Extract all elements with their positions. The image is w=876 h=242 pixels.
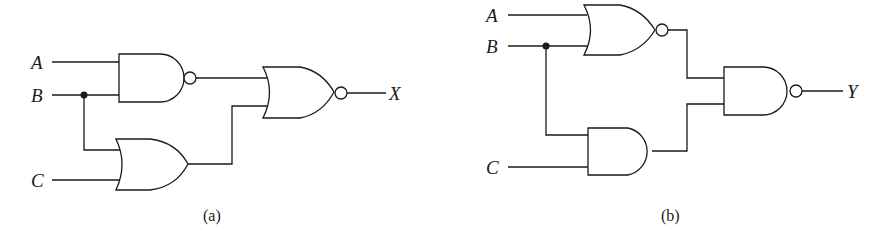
input-label-b-C: C [486, 157, 499, 178]
circuit-a: A B C X (a) [29, 52, 402, 225]
output-label-Y: Y [847, 81, 860, 102]
circuit-b: A B C Y (b) [484, 5, 860, 225]
nor-gate-b [584, 5, 655, 55]
logic-circuits-figure: A B C X (a) A B C [0, 0, 876, 242]
nand-gate-a [119, 54, 184, 102]
input-label-b-A: A [484, 5, 498, 26]
nand-bubble-a [184, 72, 196, 84]
and-gate-b [588, 128, 647, 175]
or-gate-a [116, 139, 188, 190]
wire-a-or-out [188, 106, 267, 164]
input-label-a-B: B [31, 85, 43, 106]
nor-bubble-b [656, 24, 668, 36]
wire-b-nor-out [668, 30, 725, 78]
caption-b: (b) [661, 207, 680, 225]
wire-b-B-branch [546, 46, 588, 135]
caption-a: (a) [203, 207, 221, 225]
nor-gate-a [263, 67, 334, 118]
input-label-a-C: C [31, 170, 44, 191]
nand-gate-b [724, 67, 787, 115]
input-label-b-B: B [486, 36, 498, 57]
wire-b-and-out [652, 104, 725, 151]
output-label-X: X [388, 83, 402, 104]
input-label-a-A: A [29, 52, 43, 73]
wire-a-B-branch [84, 95, 120, 150]
nor-bubble-a [335, 87, 347, 99]
nand-bubble-b [790, 85, 802, 97]
